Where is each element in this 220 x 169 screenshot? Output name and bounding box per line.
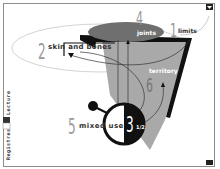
side-tab-lecture[interactable]: Lecture (5, 90, 11, 115)
clock-knob (88, 101, 98, 111)
label-skin-and-bones: skin and bones (48, 44, 112, 51)
node-number-5: 5 (68, 116, 76, 138)
node-number-6: 6 (146, 75, 153, 95)
side-tab-registres[interactable]: Registres (5, 128, 11, 160)
label-joints: joints (137, 30, 156, 36)
node-number-4: 4 (136, 8, 143, 28)
label-territory: territory (149, 68, 178, 74)
label-mixed-use: mixed use (79, 123, 124, 130)
label-limits: limits (178, 28, 197, 34)
node-number-2: 2 (38, 41, 46, 63)
diagram-graphic (0, 0, 220, 169)
corner-marker-bottom-right-icon (206, 160, 213, 165)
node-number-3: 3 (126, 114, 134, 136)
side-tab-marker-dark (3, 117, 10, 123)
label-fraction: 1/2 (136, 125, 145, 130)
node-number-1: 1 (170, 20, 177, 40)
